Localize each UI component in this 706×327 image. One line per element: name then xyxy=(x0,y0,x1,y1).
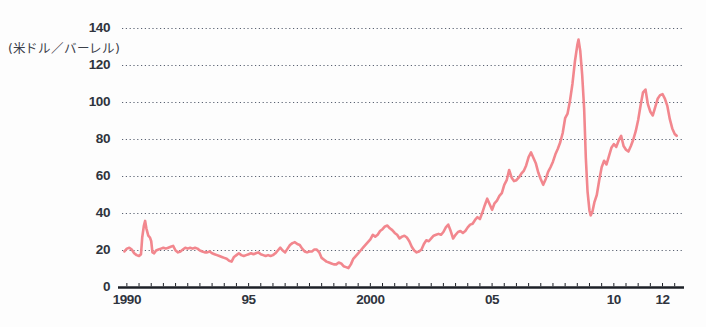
y-tick-label: 80 xyxy=(54,131,110,146)
gridline-group xyxy=(122,29,682,251)
y-tick-label: 40 xyxy=(54,205,110,220)
x-minor-tick-group xyxy=(127,283,675,286)
y-tick-label: 20 xyxy=(54,242,110,257)
chart-container: (米ドル／バーレル) 140120100806040200 1990952000… xyxy=(0,0,706,327)
y-axis-unit-label: (米ドル／バーレル) xyxy=(8,38,120,57)
y-tick-label: 120 xyxy=(54,57,110,72)
x-tick-label: 1990 xyxy=(100,292,154,307)
x-tick-label: 10 xyxy=(587,292,641,307)
x-tick-label: 2000 xyxy=(343,292,397,307)
y-tick-label: 100 xyxy=(54,94,110,109)
y-tick-label: 60 xyxy=(54,168,110,183)
x-tick-label: 05 xyxy=(465,292,519,307)
y-tick-label: 140 xyxy=(54,20,110,35)
x-tick-label: 95 xyxy=(222,292,276,307)
price-series-line xyxy=(124,40,676,268)
x-tick-label: 12 xyxy=(636,292,690,307)
